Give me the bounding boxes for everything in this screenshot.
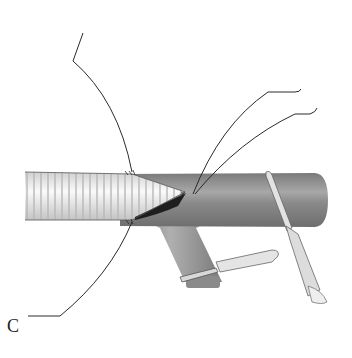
- anastomosis-illustration: ✕: [0, 0, 352, 358]
- figure-panel: ✕ C: [0, 0, 352, 358]
- suture-upper-left: [73, 33, 132, 172]
- suture-lower-left: [28, 222, 132, 316]
- svg-text:✕: ✕: [180, 190, 186, 198]
- panel-label: C: [7, 316, 19, 337]
- branch-vessel: [135, 220, 222, 288]
